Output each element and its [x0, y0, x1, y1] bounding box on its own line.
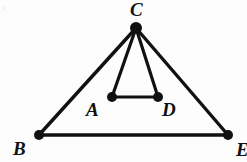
vertex-dot-e: [223, 130, 233, 140]
corner-speck: [2, 4, 7, 13]
vertex-label-e: E: [236, 140, 247, 159]
segment-layer: [39, 28, 228, 135]
vertex-label-c: C: [130, 0, 143, 19]
vertex-label-a: A: [86, 100, 99, 119]
figure-canvas: [0, 0, 247, 162]
vertex-dot-c: [130, 22, 142, 34]
vertex-dot-b: [34, 130, 44, 140]
vertex-label-b: B: [13, 139, 26, 158]
geometry-figure: CBEAD: [0, 0, 247, 162]
segment-ca: [112, 28, 136, 97]
segment-ce: [136, 28, 228, 135]
vertex-label-d: D: [162, 100, 176, 119]
vertex-dot-a: [107, 92, 117, 102]
